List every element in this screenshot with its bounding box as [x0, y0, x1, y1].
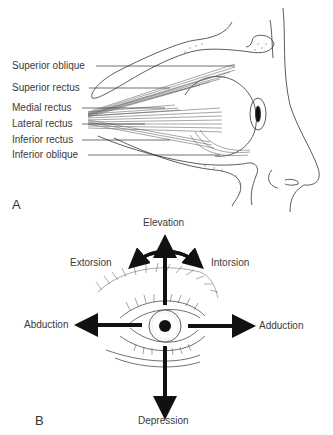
label-inferior-oblique: Inferior oblique — [12, 150, 78, 160]
panel-a-letter: A — [12, 198, 21, 211]
label-elevation: Elevation — [143, 218, 184, 228]
label-depression: Depression — [138, 416, 189, 426]
label-superior-rectus: Superior rectus — [12, 83, 80, 93]
label-adduction: Adduction — [259, 321, 303, 331]
panel-b-letter: B — [35, 414, 44, 427]
label-inferior-rectus: Inferior rectus — [12, 135, 73, 145]
label-lateral-rectus: Lateral rectus — [12, 119, 73, 129]
label-superior-oblique: Superior oblique — [12, 61, 85, 71]
label-extorsion: Extorsion — [70, 258, 112, 268]
label-abduction: Abduction — [24, 320, 68, 330]
label-intorsion: Intorsion — [211, 258, 249, 268]
label-medial-rectus: Medial rectus — [12, 103, 71, 113]
